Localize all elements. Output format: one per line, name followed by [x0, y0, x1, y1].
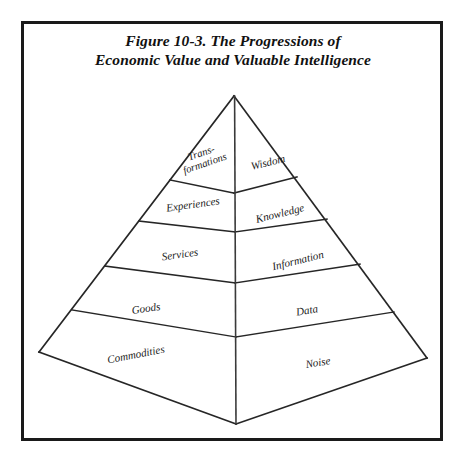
figure-container: Figure 10-3. The Progressions of Economi… [0, 0, 467, 461]
caption-line-2: Economic Value and Valuable Intelligence [40, 50, 426, 69]
figure-caption: Figure 10-3. The Progressions of Economi… [40, 31, 426, 69]
figure-border-frame [21, 21, 443, 441]
caption-line-1: Figure 10-3. The Progressions of [40, 31, 426, 50]
